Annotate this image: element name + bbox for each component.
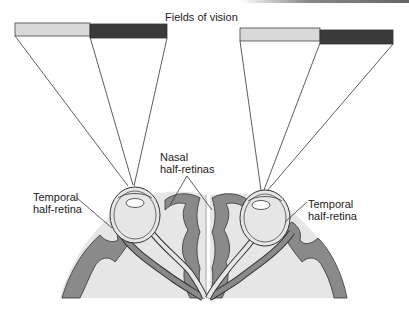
right-field-bar bbox=[240, 28, 393, 44]
nasal-label-line2: half-retinas bbox=[160, 163, 214, 175]
right-eye-rays bbox=[240, 41, 393, 191]
brain-cross-section bbox=[60, 192, 347, 298]
left-eye-rays bbox=[15, 36, 167, 186]
left-eye bbox=[110, 187, 160, 243]
temporal-left-label-line2: half-retina bbox=[33, 203, 82, 215]
left-field-bar bbox=[15, 23, 167, 38]
right-eye bbox=[240, 190, 290, 246]
temporal-right-label-line2: half-retina bbox=[308, 210, 357, 222]
fields-of-vision-title: Fields of vision bbox=[165, 11, 238, 23]
visual-fields-diagram bbox=[0, 0, 409, 318]
temporal-left-label-line1: Temporal bbox=[33, 191, 78, 203]
temporal-right-label-line1: Temporal bbox=[308, 198, 353, 210]
nasal-label-line1: Nasal bbox=[160, 151, 188, 163]
